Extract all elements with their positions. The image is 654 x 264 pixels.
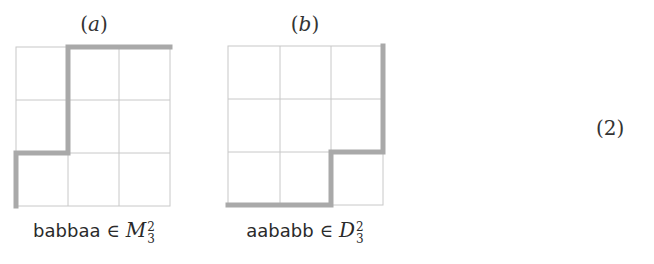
- element-of-symbol: ∈: [320, 220, 333, 241]
- caption-b: aababb∈D23: [205, 218, 405, 245]
- set-symbol: D: [339, 218, 355, 242]
- subscript: 3: [356, 233, 364, 245]
- figure-label-a: (a): [44, 12, 144, 36]
- grid-b: [228, 46, 383, 205]
- element-of-symbol: ∈: [106, 220, 119, 241]
- superscript-subscript: 23: [356, 221, 364, 245]
- subscript: 3: [147, 233, 155, 245]
- equation-number: (2): [596, 116, 624, 140]
- lattice-path-a: [16, 47, 170, 206]
- figure-label-b: (b): [255, 12, 355, 36]
- grid-a: [16, 47, 170, 206]
- caption-a: babbaa∈M23: [0, 218, 194, 245]
- figure-label-a-text: a: [88, 12, 100, 36]
- figure-label-b-text: b: [299, 12, 312, 36]
- superscript-subscript: 23: [147, 221, 155, 245]
- lattice-path-b: [228, 46, 383, 205]
- set-symbol: M: [126, 218, 146, 242]
- caption-word: babbaa: [33, 220, 100, 241]
- caption-word: aababb: [246, 220, 313, 241]
